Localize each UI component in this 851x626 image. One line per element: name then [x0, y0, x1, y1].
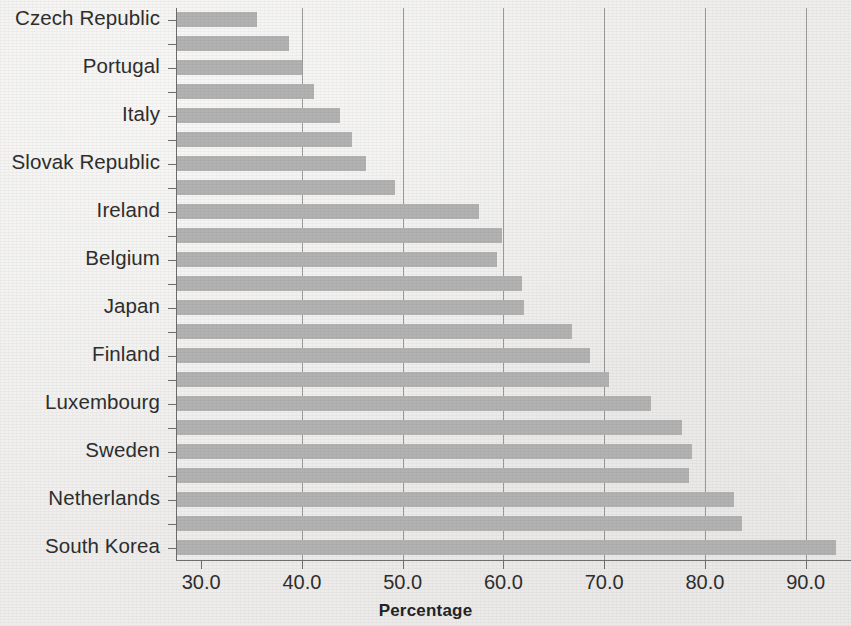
y-axis-tick-label: Slovak Republic — [12, 150, 161, 174]
y-tick-mark — [168, 236, 176, 237]
x-tick-mark — [705, 560, 706, 569]
bar — [176, 84, 314, 99]
bar — [176, 252, 497, 267]
bar — [176, 36, 289, 51]
y-axis-tick-label: Luxembourg — [45, 390, 160, 414]
y-tick-mark — [168, 308, 176, 309]
y-axis-tick-label: South Korea — [45, 534, 160, 558]
bar — [176, 516, 742, 531]
bar — [176, 540, 836, 555]
bar — [176, 444, 692, 459]
y-axis-tick-label: Italy — [122, 102, 160, 126]
y-tick-mark — [168, 524, 176, 525]
x-tick-mark — [302, 560, 303, 569]
bar — [176, 396, 651, 411]
x-axis-tick-label: 70.0 — [585, 571, 624, 594]
y-axis-tick-label: Finland — [92, 342, 160, 366]
y-axis-tick-label: Sweden — [85, 438, 160, 462]
bar — [176, 204, 479, 219]
bar — [176, 276, 522, 291]
bar — [176, 372, 609, 387]
bar — [176, 60, 302, 75]
y-tick-mark — [168, 188, 176, 189]
y-tick-mark — [168, 332, 176, 333]
y-tick-mark — [168, 140, 176, 141]
y-axis-tick-label: Czech Republic — [15, 6, 160, 30]
x-axis-tick-label: 90.0 — [786, 571, 825, 594]
x-axis-tick-label: 60.0 — [484, 571, 523, 594]
bar-chart: Czech RepublicPortugalItalySlovak Republ… — [0, 0, 851, 626]
y-tick-mark — [168, 404, 176, 405]
x-tick-mark — [503, 560, 504, 569]
plot-area — [176, 8, 851, 560]
y-tick-mark — [168, 476, 176, 477]
y-axis-tick-label: Japan — [104, 294, 160, 318]
bar — [176, 156, 366, 171]
x-tick-mark — [201, 560, 202, 569]
bar — [176, 348, 590, 363]
bar — [176, 12, 257, 27]
y-tick-mark — [168, 380, 176, 381]
y-tick-mark — [168, 356, 176, 357]
y-tick-mark — [168, 116, 176, 117]
x-axis-title: Percentage — [0, 601, 851, 621]
x-axis-tick-label: 30.0 — [182, 571, 221, 594]
bar — [176, 132, 352, 147]
y-tick-mark — [168, 548, 176, 549]
y-axis-tick-label: Portugal — [83, 54, 160, 78]
bar — [176, 468, 689, 483]
gridline — [705, 8, 706, 560]
y-tick-mark — [168, 212, 176, 213]
x-tick-mark — [806, 560, 807, 569]
y-tick-mark — [168, 164, 176, 165]
y-axis-tick-label: Ireland — [97, 198, 160, 222]
x-axis-tick-label: 50.0 — [383, 571, 422, 594]
y-axis-tick-label: Netherlands — [48, 486, 160, 510]
bar — [176, 324, 572, 339]
x-axis-tick-label: 40.0 — [282, 571, 321, 594]
y-tick-mark — [168, 260, 176, 261]
x-tick-mark — [604, 560, 605, 569]
y-tick-mark — [168, 92, 176, 93]
y-tick-mark — [168, 428, 176, 429]
bar — [176, 420, 682, 435]
bar — [176, 492, 734, 507]
y-tick-mark — [168, 452, 176, 453]
y-tick-mark — [168, 20, 176, 21]
x-tick-mark — [403, 560, 404, 569]
bar — [176, 300, 524, 315]
bar — [176, 228, 502, 243]
bar — [176, 180, 395, 195]
x-axis-line — [176, 560, 851, 561]
bar — [176, 108, 340, 123]
x-axis-tick-label: 80.0 — [685, 571, 724, 594]
y-tick-mark — [168, 68, 176, 69]
gridline — [806, 8, 807, 560]
y-tick-mark — [168, 500, 176, 501]
y-tick-mark — [168, 44, 176, 45]
y-axis-line — [176, 8, 177, 560]
y-axis-tick-label: Belgium — [85, 246, 160, 270]
y-tick-mark — [168, 284, 176, 285]
